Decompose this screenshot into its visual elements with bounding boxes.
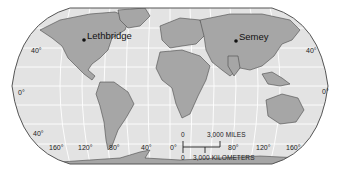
lon-label-0: 0°	[170, 144, 177, 151]
lon-label-80w: 80°	[109, 144, 120, 151]
lon-label-160e: 160°	[286, 144, 300, 151]
lon-label-80e: 80°	[228, 144, 239, 151]
lat-label-left-40s: 40°	[33, 130, 44, 137]
lethbridge-marker	[82, 38, 86, 42]
lon-label-160w: 160°	[49, 144, 63, 151]
lat-label-right-40n: 40°	[306, 47, 317, 54]
city-label-lethbridge: Lethbridge	[87, 31, 132, 41]
scale-km-label: 3,000 KILOMETERS	[193, 155, 255, 162]
city-label-semey: Semey	[239, 32, 269, 42]
semey-marker	[234, 39, 238, 43]
lat-label-left-40n: 40°	[31, 47, 42, 54]
lon-label-120w: 120°	[78, 144, 92, 151]
scale-miles-zero: 0	[181, 132, 185, 139]
lat-label-right-0: 0°	[322, 88, 329, 95]
scale-miles-label: 3,000 MILES	[207, 132, 246, 139]
lon-label-120e: 120°	[256, 144, 270, 151]
scale-km-zero: 0	[181, 155, 185, 162]
lon-label-40w: 40°	[141, 144, 152, 151]
lat-label-left-0: 0°	[18, 89, 25, 96]
